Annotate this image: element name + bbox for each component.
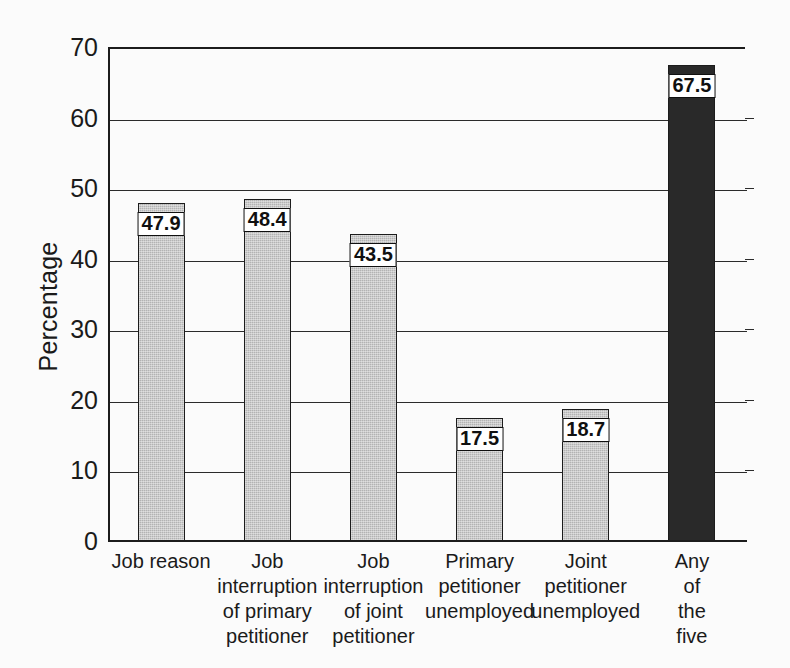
x-axis-category-label: Job interruption of primary petitioner: [217, 549, 317, 649]
y-axis-tick-mark: [745, 470, 754, 471]
x-axis-category-labels: Job reasonJob interruption of primary pe…: [108, 549, 745, 661]
bar-value-label: 67.5: [668, 74, 715, 98]
y-axis-tick-label: 70: [40, 35, 98, 60]
bar-value-label: 17.5: [456, 427, 503, 451]
y-axis-tick-labels: 010203040506070: [38, 47, 98, 541]
y-axis-tick-label: 20: [40, 387, 98, 412]
y-axis-tick-label: 10: [40, 458, 98, 483]
x-axis-category-label: Any of the five: [665, 549, 718, 649]
x-axis-category-label: Job interruption of joint petitioner: [323, 549, 423, 649]
bar-value-label: 48.4: [244, 208, 291, 232]
bar-value-label: 43.5: [350, 243, 397, 267]
bar-value-label: 18.7: [562, 418, 609, 442]
y-axis-tick-label: 50: [40, 176, 98, 201]
x-axis-category-label: Joint petitioner unemployed: [531, 549, 640, 624]
x-axis-category-label: Job reason: [112, 549, 211, 574]
bar: [668, 65, 715, 541]
x-axis-category-label: Primary petitioner unemployed: [425, 549, 534, 624]
bars-group: 47.948.443.517.518.767.5: [108, 47, 745, 541]
bar-value-label: 47.9: [138, 212, 185, 236]
y-axis-tick-mark: [745, 118, 754, 119]
y-axis-tick-label: 40: [40, 246, 98, 271]
y-axis-tick-label: 0: [40, 529, 98, 554]
y-axis-tick-mark: [745, 259, 754, 260]
bar: [350, 234, 397, 541]
bar: [244, 199, 291, 541]
y-axis-tick-mark: [745, 329, 754, 330]
y-axis-tick-mark: [745, 188, 754, 189]
bar-chart-figure: Percentage 010203040506070 47.948.443.51…: [0, 0, 790, 668]
y-axis-tick-label: 30: [40, 317, 98, 342]
y-axis-tick-label: 60: [40, 105, 98, 130]
bar: [138, 203, 185, 541]
y-axis-tick-mark: [745, 400, 754, 401]
